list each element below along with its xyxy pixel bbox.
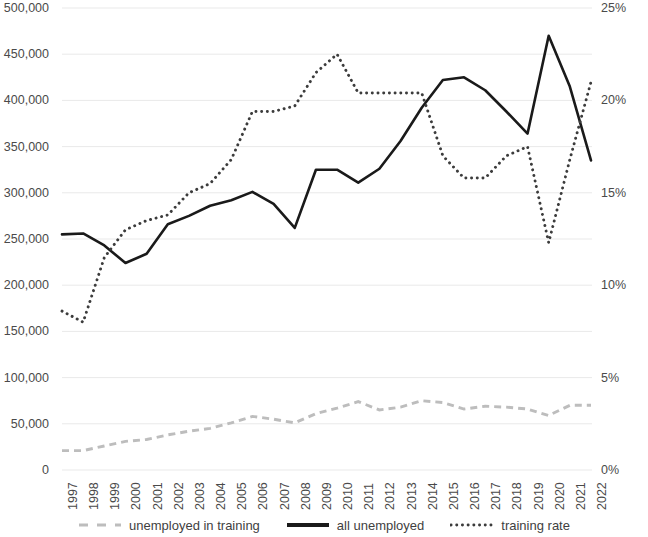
left-axis-tick-label: 450,000 (4, 48, 49, 61)
series-unemployed-in-training (62, 401, 591, 451)
legend-label: unemployed in training (129, 519, 260, 532)
left-axis-tick-label: 400,000 (4, 94, 49, 107)
right-axis-tick-label: 10% (601, 279, 626, 292)
chart-container: 050,000100,000150,000200,000250,000300,0… (0, 0, 648, 537)
category-tick-label: 1997 (67, 482, 80, 510)
category-tick-label: 2012 (384, 482, 397, 510)
category-tick-label: 2008 (300, 482, 313, 510)
legend-swatch-solid (286, 519, 330, 531)
category-tick-label: 2015 (448, 482, 461, 510)
right-axis-tick-label: 0% (601, 464, 619, 477)
category-tick-label: 2017 (490, 482, 503, 510)
chart-legend: unemployed in trainingall unemployedtrai… (0, 513, 648, 537)
plot-area (62, 8, 592, 470)
category-tick-label: 2007 (279, 482, 292, 510)
gridlines (62, 8, 592, 470)
legend-swatch-dashed (78, 519, 122, 531)
category-tick-label: 2021 (575, 482, 588, 510)
left-value-axis: 050,000100,000150,000200,000250,000300,0… (0, 0, 56, 480)
right-axis-tick-label: 20% (601, 94, 626, 107)
category-tick-label: 2002 (173, 482, 186, 510)
left-axis-tick-label: 500,000 (4, 2, 49, 15)
right-axis-tick-label: 5% (601, 372, 619, 385)
category-tick-label: 1999 (109, 482, 122, 510)
category-tick-label: 2019 (533, 482, 546, 510)
legend-label: all unemployed (337, 519, 424, 532)
left-axis-tick-label: 0 (42, 464, 49, 477)
right-percent-axis: 0%5%10%15%20%25% (592, 0, 648, 480)
left-axis-tick-label: 350,000 (4, 141, 49, 154)
category-axis: 1997199819992000200120022003200420052006… (62, 474, 592, 516)
category-tick-label: 1998 (88, 482, 101, 510)
category-tick-label: 2018 (511, 482, 524, 510)
category-tick-label: 2011 (363, 483, 376, 510)
left-axis-tick-label: 50,000 (11, 418, 49, 431)
category-tick-label: 2014 (427, 482, 440, 510)
category-tick-label: 2013 (406, 482, 419, 510)
series-all-unemployed (62, 36, 591, 263)
category-tick-label: 2003 (194, 482, 207, 510)
category-tick-label: 2006 (257, 482, 270, 510)
legend-item[interactable]: training rate (450, 519, 570, 532)
left-axis-tick-label: 100,000 (4, 372, 49, 385)
category-tick-label: 2000 (130, 482, 143, 510)
legend-swatch-dotted (450, 519, 494, 531)
left-axis-tick-label: 150,000 (4, 325, 49, 338)
category-tick-label: 2001 (152, 482, 165, 510)
legend-item[interactable]: unemployed in training (78, 519, 260, 532)
category-tick-label: 2009 (321, 482, 334, 510)
legend-label: training rate (501, 519, 570, 532)
category-tick-label: 2010 (342, 482, 355, 510)
right-axis-tick-label: 15% (601, 187, 626, 200)
series-training-rate (62, 54, 591, 322)
category-tick-label: 2005 (236, 482, 249, 510)
category-tick-label: 2016 (469, 482, 482, 510)
left-axis-tick-label: 250,000 (4, 233, 49, 246)
category-tick-label: 2004 (215, 482, 228, 510)
legend-item[interactable]: all unemployed (286, 519, 424, 532)
category-tick-label: 2022 (596, 482, 609, 510)
left-axis-tick-label: 200,000 (4, 279, 49, 292)
left-axis-tick-label: 300,000 (4, 187, 49, 200)
category-tick-label: 2020 (554, 482, 567, 510)
right-axis-tick-label: 25% (601, 2, 626, 15)
plot-svg (62, 8, 592, 470)
